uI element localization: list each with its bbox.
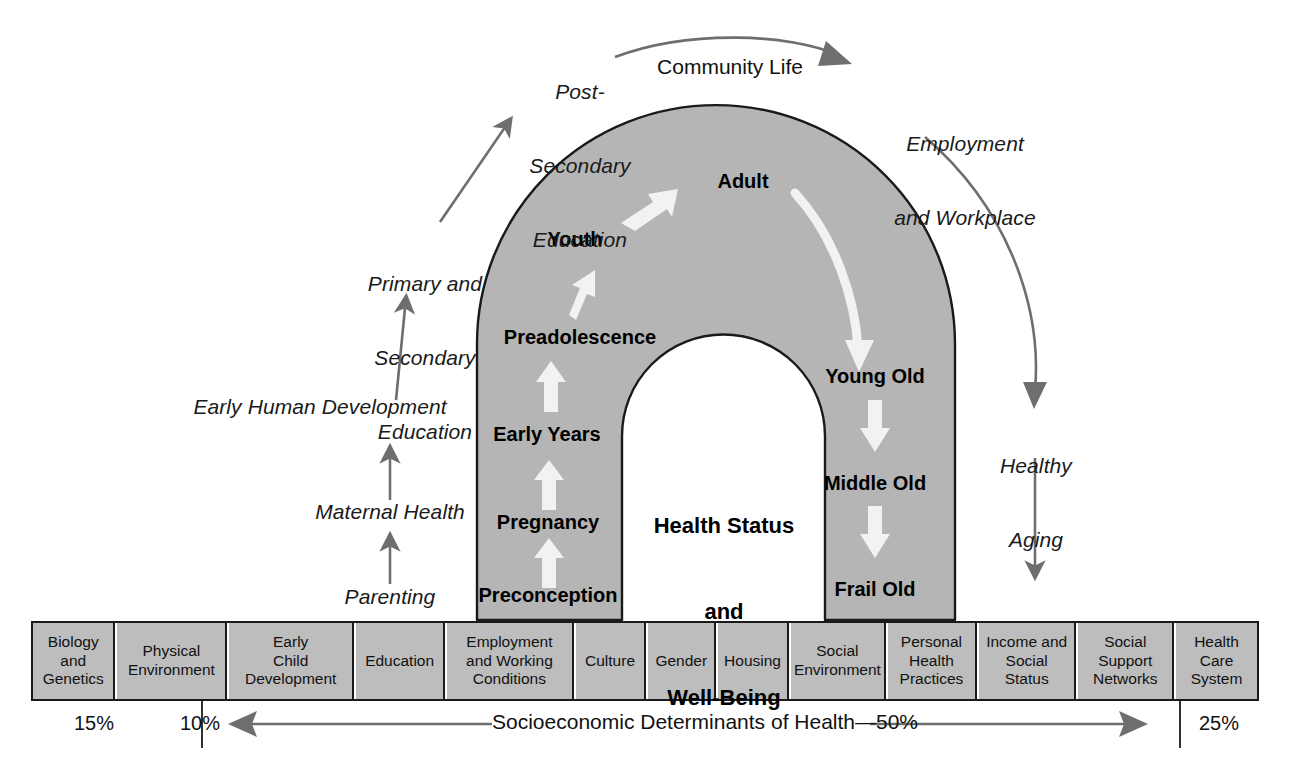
employment-line-1: Employment (845, 132, 1085, 157)
determinant-cell-line: Employment (466, 633, 553, 652)
stage-label-frail-old: Frail Old (808, 578, 942, 602)
post-secondary-line-2: Secondary (500, 154, 660, 179)
primary-education-line-3: Education (330, 420, 520, 445)
determinant-cell-line: Personal (900, 633, 964, 652)
determinant-cell-line: Income and (986, 633, 1067, 652)
determinant-cell-line: Conditions (466, 670, 553, 689)
determinant-cell-label: PersonalHealthPractices (900, 633, 964, 690)
pct-health-care-system: 25% (1180, 712, 1258, 736)
determinant-cell-line: Child (245, 652, 336, 671)
pct-biology-and-genetics: 15% (34, 712, 154, 736)
primary-education-line-2: Secondary (330, 346, 520, 371)
determinant-cell-line: Development (245, 670, 336, 689)
determinant-cell-label: PhysicalEnvironment (128, 642, 215, 680)
determinant-cell-line: Practices (900, 670, 964, 689)
stage-label-middle-old: Middle Old (804, 472, 946, 496)
determinant-cell-physical-environment: PhysicalEnvironment (117, 623, 227, 699)
health-status-line-1: Health Status (632, 512, 816, 541)
stage-label-adult: Adult (688, 170, 798, 194)
employment-line-2: and Workplace (845, 206, 1085, 231)
socioeconomic-determinants-band-label: Socioeconomic Determinants of Health—50% (492, 710, 872, 735)
health-status-line-2: and (632, 598, 816, 627)
outer-label-community-life: Community Life (620, 55, 840, 80)
determinant-cell-label: Culture (585, 652, 635, 671)
determinant-cell-line: Genetics (43, 670, 104, 689)
determinant-cell-line: Care (1191, 652, 1243, 671)
outer-label-parenting: Parenting (316, 585, 464, 610)
determinant-cell-health-care-system: HealthCareSystem (1176, 623, 1257, 699)
determinant-cell-label: Employmentand WorkingConditions (466, 633, 553, 690)
determinant-cell-employment-and-working-conditions: Employmentand WorkingConditions (447, 623, 573, 699)
determinant-cell-line: Health (900, 652, 964, 671)
determinant-cell-early-child-development: EarlyChildDevelopment (229, 623, 354, 699)
determinant-cell-label: Education (365, 652, 434, 671)
determinant-cell-social-support-networks: SocialSupportNetworks (1078, 623, 1174, 699)
determinant-cell-line: Support (1093, 652, 1158, 671)
determinant-cell-label: BiologyandGenetics (43, 633, 104, 690)
stage-label-young-old: Young Old (804, 365, 946, 389)
determinant-cell-line: Health (1191, 633, 1243, 652)
determinant-cell-line: Early (245, 633, 336, 652)
band-arrow-left (228, 711, 492, 737)
determinant-cell-line: Social (1093, 633, 1158, 652)
determinant-cell-line: Social (986, 652, 1067, 671)
determinant-cell-label: HealthCareSystem (1191, 633, 1243, 690)
outer-label-primary-secondary-education: Primary and Secondary Education (330, 222, 520, 494)
determinant-cell-line: Status (986, 670, 1067, 689)
healthy-aging-line-2: Aging (975, 528, 1097, 553)
determinant-cell-line: Culture (585, 652, 635, 671)
determinant-cell-line: Networks (1093, 670, 1158, 689)
determinant-cell-line: System (1191, 670, 1243, 689)
determinant-cell-label: Income andSocialStatus (986, 633, 1067, 690)
determinant-cell-label: SocialSupportNetworks (1093, 633, 1158, 690)
determinant-cell-personal-health-practices: PersonalHealthPractices (888, 623, 977, 699)
outer-label-employment-and-workplace: Employment and Workplace (845, 82, 1085, 280)
post-secondary-line-3: Education (500, 228, 660, 253)
stage-label-preconception: Preconception (474, 584, 622, 608)
healthy-aging-line-1: Healthy (975, 454, 1097, 479)
post-secondary-line-1: Post- (500, 80, 660, 105)
primary-education-line-1: Primary and (330, 272, 520, 297)
determinant-cell-biology-and-genetics: BiologyandGenetics (33, 623, 115, 699)
diagram-canvas: BiologyandGeneticsPhysicalEnvironmentEar… (0, 0, 1290, 775)
determinant-cell-line: Physical (128, 642, 215, 661)
pct-physical-environment: 10% (140, 712, 260, 736)
determinant-cell-line: and (43, 652, 104, 671)
determinant-cell-line: Environment (128, 661, 215, 680)
determinant-cell-line: and Working (466, 652, 553, 671)
health-status-line-3: Well-Being (632, 684, 816, 713)
determinant-cell-line: Education (365, 652, 434, 671)
determinant-cell-income-and-social-status: Income andSocialStatus (979, 623, 1076, 699)
determinant-cell-label: EarlyChildDevelopment (245, 633, 336, 690)
determinant-cell-line: Biology (43, 633, 104, 652)
determinant-cell-education: Education (356, 623, 445, 699)
outer-label-maternal-health: Maternal Health (282, 500, 498, 525)
outer-label-healthy-aging: Healthy Aging (975, 404, 1097, 602)
